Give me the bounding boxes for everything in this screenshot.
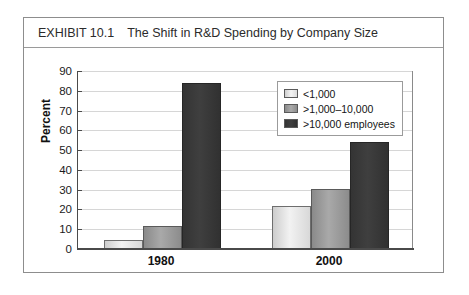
legend-label: >1,000–10,000 [303, 103, 373, 115]
bar-2000-series-1 [311, 189, 350, 249]
y-axis-tick-mark [77, 150, 82, 151]
bar-1980-series-2 [182, 83, 221, 249]
legend-item: >10,000 employees [284, 117, 395, 130]
y-axis-tick-mark [77, 229, 82, 230]
y-axis-tick-mark [77, 71, 82, 72]
chart-legend: <1,000>1,000–10,000>10,000 employees [277, 81, 403, 136]
x-axis-tick-label: 1980 [148, 254, 175, 268]
bar-1980-series-1 [143, 226, 182, 249]
exhibit-number-label: EXHIBIT 10.1 [38, 26, 114, 40]
legend-item: >1,000–10,000 [284, 102, 395, 115]
y-axis-tick-mark [77, 190, 82, 191]
y-axis-tick-mark [77, 249, 82, 250]
legend-label: >10,000 employees [303, 118, 395, 130]
bar-2000-series-2 [350, 142, 389, 249]
y-axis-tick-label: 0 [46, 243, 72, 255]
y-axis-tick-mark [77, 111, 82, 112]
y-axis-tick-label: 10 [46, 223, 72, 235]
gridline [78, 71, 412, 72]
y-axis-tick-label: 70 [46, 105, 72, 117]
y-axis-tick-label: 60 [46, 124, 72, 136]
y-axis-tick-mark [77, 130, 82, 131]
y-axis-tick-mark [77, 91, 82, 92]
legend-item: <1,000 [284, 87, 395, 100]
y-axis-tick-label: 20 [46, 203, 72, 215]
y-axis-tick-label: 50 [46, 144, 72, 156]
legend-swatch-icon [284, 119, 298, 128]
exhibit-frame: EXHIBIT 10.1 The Shift in R&D Spending b… [23, 17, 444, 273]
y-axis-tick-mark [77, 170, 82, 171]
exhibit-title-group: EXHIBIT 10.1 The Shift in R&D Spending b… [24, 26, 378, 40]
legend-swatch-icon [284, 89, 298, 98]
exhibit-title-text: The Shift in R&D Spending by Company Siz… [127, 26, 378, 40]
x-axis-tick-label: 2000 [316, 254, 343, 268]
y-axis-tick-mark [77, 209, 82, 210]
y-axis-tick-labels: 0102030405060708090 [38, 71, 72, 249]
bar-2000-series-0 [272, 206, 311, 250]
y-axis-tick-label: 30 [46, 184, 72, 196]
exhibit-title-bar: EXHIBIT 10.1 The Shift in R&D Spending b… [24, 18, 443, 48]
y-axis-tick-label: 90 [46, 65, 72, 77]
y-axis-tick-label: 40 [46, 164, 72, 176]
legend-label: <1,000 [303, 88, 335, 100]
x-axis-line [77, 248, 414, 250]
y-axis-tick-label: 80 [46, 85, 72, 97]
legend-swatch-icon [284, 104, 298, 113]
chart-area: Percent 0102030405060708090 19802000 <1,… [24, 49, 443, 272]
